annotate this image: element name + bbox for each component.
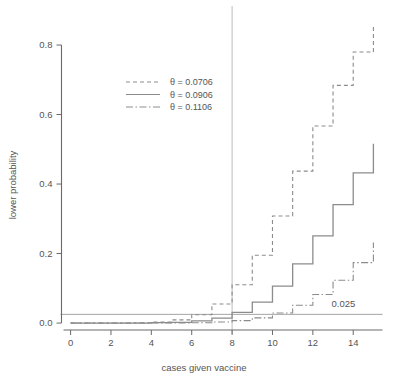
x-tick-label: 14 bbox=[348, 337, 359, 348]
y-tick-label: 0.4 bbox=[39, 178, 52, 189]
y-tick-label: 0.6 bbox=[39, 109, 52, 120]
x-tick-label: 4 bbox=[149, 337, 154, 348]
x-tick-label: 10 bbox=[267, 337, 278, 348]
y-axis-title: lower probability bbox=[7, 150, 18, 219]
y-tick-label: 0.0 bbox=[39, 317, 52, 328]
threshold-annotation: 0.025 bbox=[331, 298, 355, 309]
x-tick-label: 6 bbox=[189, 337, 194, 348]
x-tick-label: 2 bbox=[108, 337, 113, 348]
legend-label-2: θ = 0.0906 bbox=[170, 90, 213, 100]
x-axis-title: cases given vaccine bbox=[161, 362, 246, 373]
y-tick-label: 0.8 bbox=[39, 39, 52, 50]
x-tick-label: 12 bbox=[308, 337, 319, 348]
lower-probability-step-chart: 02468101214 0.00.20.40.60.8 cases given … bbox=[0, 0, 408, 388]
chart-page: 02468101214 0.00.20.40.60.8 cases given … bbox=[0, 0, 408, 388]
legend-label-3: θ = 0.1106 bbox=[170, 102, 212, 112]
y-tick-label: 0.2 bbox=[39, 248, 52, 259]
legend-label-1: θ = 0.0706 bbox=[170, 77, 213, 87]
x-tick-label: 8 bbox=[229, 337, 234, 348]
x-tick-label: 0 bbox=[68, 337, 73, 348]
